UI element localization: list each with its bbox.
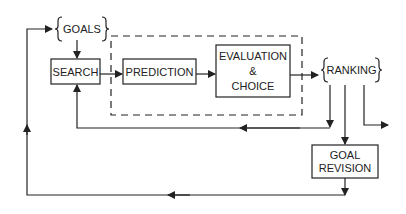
goal-revision-label-line1: GOAL [330,149,361,161]
ranking-label: RANKING [326,64,376,76]
search-label: SEARCH [53,66,99,78]
goal-revision-label-line2: REVISION [319,162,372,174]
goals-label: GOALS [63,23,101,35]
goals-brace-right [102,17,109,41]
evaluation-label-line1: EVALUATION [219,50,287,62]
ranking-output-arrow [364,85,388,125]
goals-brace-left [55,17,62,41]
ranking-to-search-feedback-line [77,85,330,128]
evaluation-label-line3: CHOICE [232,80,275,92]
evaluation-label-line2: & [249,65,257,77]
goal-revision-to-goals-loop [27,29,345,195]
prediction-label: PREDICTION [126,66,194,78]
decision-process-diagram: GOALS SEARCH PREDICTION EVALUATION & CHO… [0,0,406,214]
